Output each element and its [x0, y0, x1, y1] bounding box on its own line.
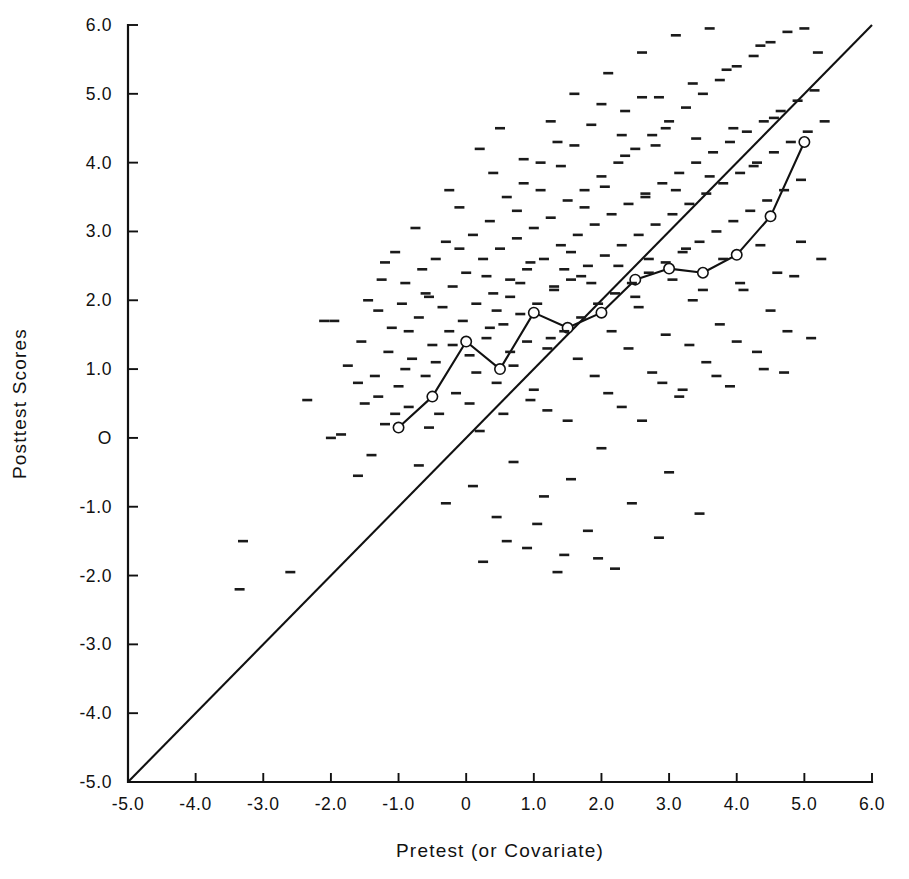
- y-axis-tick-label: -5.0: [79, 772, 112, 792]
- y-axis-title: Posttest Scores: [9, 328, 30, 479]
- x-axis-tick-label: 6.0: [859, 794, 885, 814]
- x-axis-tick-label: -1.0: [382, 794, 415, 814]
- x-axis-tick-label: 1.0: [521, 794, 547, 814]
- x-axis-tick-label: -2.0: [315, 794, 348, 814]
- x-axis-tick-label: 2.0: [588, 794, 614, 814]
- conditional-mean-marker: [427, 391, 437, 401]
- conditional-mean-marker: [664, 263, 674, 273]
- y-axis-tick-label: -4.0: [79, 703, 112, 723]
- conditional-mean-marker: [461, 336, 471, 346]
- y-axis-tick-label: 1.0: [86, 359, 112, 379]
- conditional-mean-marker: [698, 268, 708, 278]
- y-axis-tick-label: -1.0: [79, 497, 112, 517]
- conditional-mean-marker: [799, 137, 809, 147]
- conditional-mean-marker: [732, 250, 742, 260]
- x-axis-tick-label: -4.0: [179, 794, 212, 814]
- conditional-mean-marker: [529, 307, 539, 317]
- x-axis-tick-label: 4.0: [724, 794, 750, 814]
- identity-reference-line: [128, 25, 872, 782]
- conditional-means-line: [399, 142, 805, 428]
- y-axis-tick-label: 3.0: [86, 221, 112, 241]
- y-axis-tick-label: -3.0: [79, 634, 112, 654]
- scatter-plot-figure: -5.0-4.0-3.0-2.0-1.001.02.03.04.05.06.0-…: [0, 0, 909, 879]
- y-axis-tick-label: 5.0: [86, 84, 112, 104]
- conditional-mean-marker: [495, 364, 505, 374]
- conditional-mean-marker: [596, 307, 606, 317]
- x-axis-tick-label: -5.0: [112, 794, 145, 814]
- x-axis-tick-label: 0: [461, 794, 471, 814]
- x-axis-tick-label: 3.0: [656, 794, 682, 814]
- x-axis-tick-label: -3.0: [247, 794, 280, 814]
- y-axis-tick-label: 4.0: [86, 153, 112, 173]
- y-axis-tick-label: O: [98, 428, 112, 448]
- y-axis-tick-label: 6.0: [86, 15, 112, 35]
- conditional-mean-marker: [393, 422, 403, 432]
- x-axis-title: Pretest (or Covariate): [396, 840, 604, 861]
- y-axis-tick-label: -2.0: [79, 566, 112, 586]
- x-axis-tick-label: 5.0: [791, 794, 817, 814]
- y-axis-tick-label: 2.0: [86, 290, 112, 310]
- conditional-mean-marker: [765, 211, 775, 221]
